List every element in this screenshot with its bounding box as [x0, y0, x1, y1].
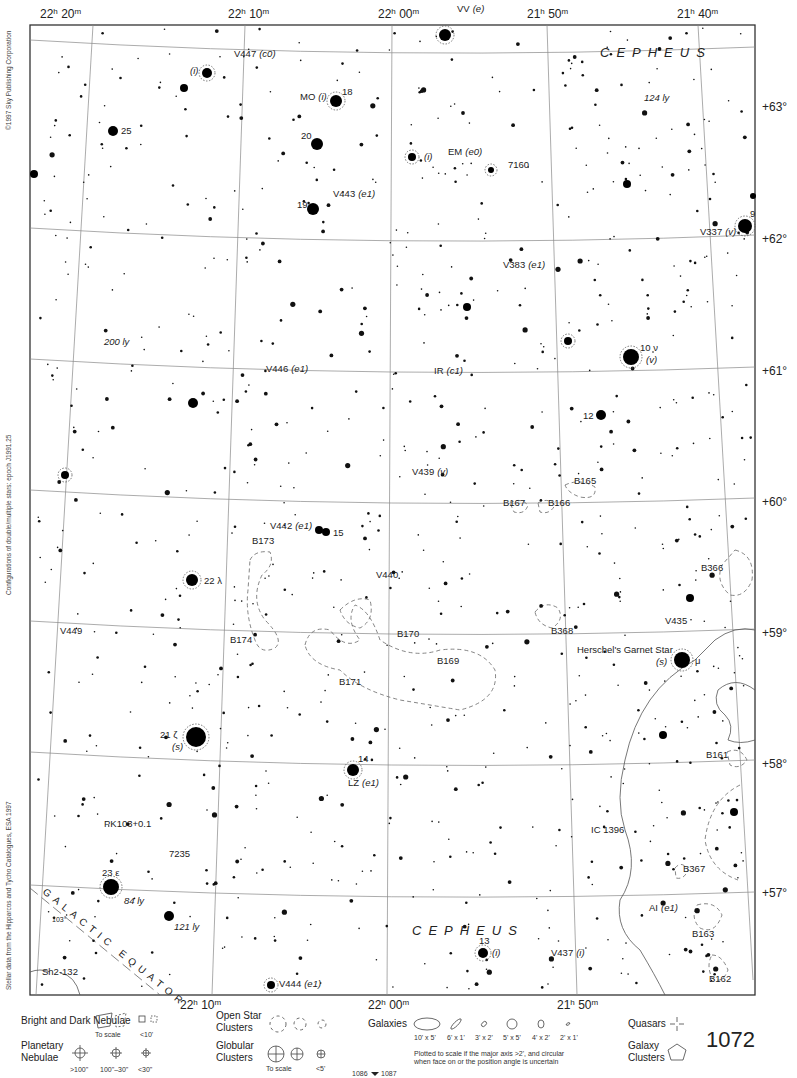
object-label: 121 ly: [174, 921, 201, 932]
svg-text:To scale: To scale: [266, 1065, 292, 1072]
star: [61, 471, 69, 479]
star: [103, 879, 119, 895]
object-label: AI(e1): [649, 902, 678, 913]
copyright-note: ©1997 Sky Publishing Corporation: [5, 30, 13, 130]
star: [330, 95, 342, 107]
object-label: PK103+0.1: [104, 818, 151, 829]
svg-text:Plotted to scale if the major: Plotted to scale if the major axis >2', …: [414, 1050, 565, 1058]
ra-label: 22h 10m: [228, 7, 270, 21]
star: [315, 526, 323, 534]
star: [202, 68, 212, 78]
star: [347, 764, 359, 776]
object-label: MO(i): [300, 91, 327, 102]
object-label: V440: [376, 569, 398, 580]
star: [738, 219, 752, 233]
ra-label: 22h 20m: [40, 7, 82, 21]
object-label: (i): [424, 151, 432, 162]
object-label: VV(e): [457, 3, 484, 14]
object-label: 25: [121, 125, 132, 136]
object-label: 20: [301, 130, 312, 141]
star: [408, 153, 416, 161]
star-chart: GALACTIC EQUATOR VV(e)V447(c0)(i)MO(i)18…: [0, 0, 797, 1078]
star: [311, 138, 323, 150]
object-label: B167: [503, 497, 525, 508]
svg-text:>100": >100": [70, 1066, 89, 1073]
object-label: 21 ζ: [160, 729, 178, 740]
star: [108, 126, 118, 136]
object-label: B161: [706, 749, 728, 760]
legend-bright-dark-nebulae: Bright and Dark Nebulae: [21, 1015, 131, 1026]
object-label: B169: [437, 655, 459, 666]
svg-text:<30": <30": [138, 1066, 153, 1073]
legend-open-clusters: Open Star: [216, 1010, 262, 1021]
quasar-icon: [670, 1017, 684, 1031]
object-label: B162: [709, 973, 731, 984]
dec-label: +61°: [762, 364, 787, 378]
legend: Bright and Dark Nebulae To scale <10' Pl…: [21, 1010, 755, 1077]
star: [322, 528, 330, 536]
planetary-nebula-icons: [72, 1045, 151, 1061]
svg-text:100"–30": 100"–30": [100, 1066, 129, 1073]
object-label: μ: [695, 655, 700, 666]
dec-label: +60°: [762, 495, 787, 509]
svg-text:Clusters: Clusters: [628, 1052, 665, 1063]
star: [188, 398, 198, 408]
object-label: 10 ν: [640, 342, 658, 353]
page-number: 1072: [706, 1027, 755, 1052]
object-label: 22 λ: [204, 575, 222, 586]
star: [186, 727, 206, 747]
ra-label: 21h 50m: [527, 7, 569, 21]
object-label: B366: [701, 562, 723, 573]
star: [30, 170, 38, 178]
small-nebula-icon: [139, 1016, 145, 1022]
object-label: V337(v): [700, 226, 736, 237]
legend-globular-clusters: Globular: [216, 1040, 254, 1051]
object-label: 103°: [52, 916, 67, 923]
dec-label: +57°: [762, 886, 787, 900]
svg-text:10' x 5': 10' x 5': [414, 1034, 436, 1041]
star: [674, 652, 690, 668]
star: [596, 410, 606, 420]
svg-text:2' x 1': 2' x 1': [560, 1034, 578, 1041]
object-label: 19: [297, 199, 308, 210]
object-label: V447(c0): [234, 48, 276, 59]
svg-text:6' x 1': 6' x 1': [447, 1034, 465, 1041]
object-label: 23 ε: [102, 867, 120, 878]
chevron-down-icon: [371, 1072, 379, 1076]
object-label: IR(c1): [434, 365, 463, 376]
star: [623, 180, 631, 188]
object-label: V449: [60, 625, 82, 636]
object-label: B171: [339, 676, 361, 687]
star: [463, 303, 471, 311]
chart-frame: [30, 25, 755, 995]
open-cluster-icons: [270, 1016, 326, 1032]
svg-text:3' x 2': 3' x 2': [475, 1034, 493, 1041]
object-label: V435: [665, 615, 687, 626]
object-label: B166: [548, 497, 570, 508]
ra-label: 22h 00m: [378, 7, 420, 21]
galaxy-icons: [414, 1018, 570, 1031]
object-label: 7235: [169, 848, 190, 859]
configurations-note: Configurations of double/multiple stars:…: [5, 434, 13, 595]
adjacent-page-right[interactable]: 1087: [381, 1070, 397, 1077]
object-label: IC 1396: [591, 824, 624, 835]
dec-label: +58°: [762, 757, 787, 771]
object-label: B165: [574, 475, 596, 486]
object-label: EM(e0): [448, 146, 482, 157]
adjacent-page-left[interactable]: 1086: [352, 1070, 368, 1077]
star: [478, 948, 488, 958]
star: [659, 731, 667, 739]
star: [488, 167, 494, 173]
object-label: B170: [397, 628, 419, 639]
small-dark-nebula-icon: [151, 1016, 157, 1022]
object-label: (i): [492, 947, 500, 958]
dec-label: +62°: [762, 232, 787, 246]
object-label: Sh2-132: [42, 966, 78, 977]
svg-text:4' x 2': 4' x 2': [532, 1034, 550, 1041]
svg-text:To scale: To scale: [95, 1031, 121, 1038]
object-label: B367: [683, 863, 705, 874]
svg-text:5' x 5': 5' x 5': [503, 1034, 521, 1041]
object-label: (s): [656, 656, 667, 667]
star: [439, 29, 451, 41]
object-label: 9: [750, 208, 755, 219]
